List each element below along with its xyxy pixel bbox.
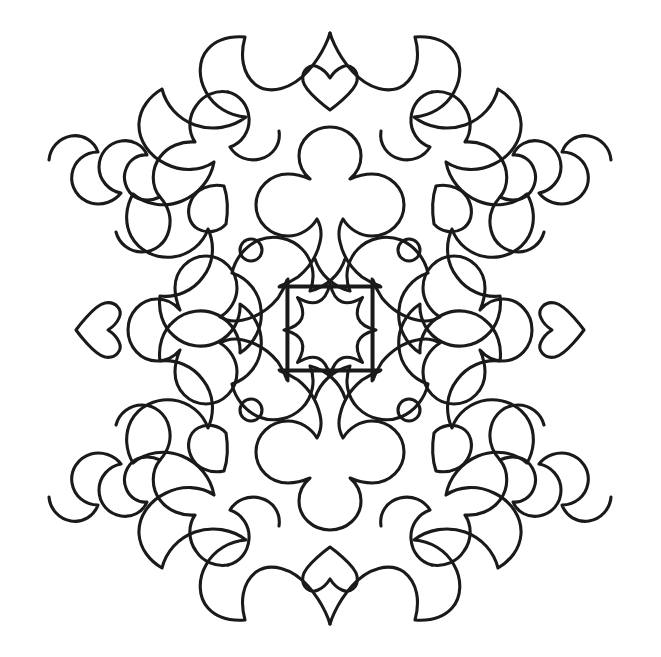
page-background (0, 0, 661, 657)
mandala-canvas: Symmetric Mandala Coloring Page (0, 0, 661, 657)
mandala-artwork: Symmetric Mandala Coloring Page (0, 0, 661, 657)
